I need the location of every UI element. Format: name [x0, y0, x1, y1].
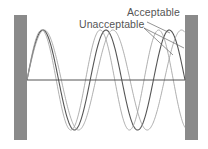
unacceptable-label: Unacceptable: [79, 18, 144, 30]
acceptable-label: Acceptable: [127, 6, 180, 18]
left-wall: [14, 15, 27, 140]
right-wall: [185, 15, 198, 140]
